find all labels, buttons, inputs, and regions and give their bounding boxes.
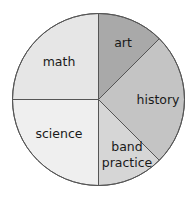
slice-label-math: math xyxy=(43,54,76,69)
slice-label-art: art xyxy=(114,35,132,50)
pie-chart: arthistorybandpracticesciencemath xyxy=(0,0,195,198)
pie-slice-science xyxy=(13,100,99,186)
slice-label-science: science xyxy=(35,126,82,141)
slice-label-history: history xyxy=(137,92,181,107)
